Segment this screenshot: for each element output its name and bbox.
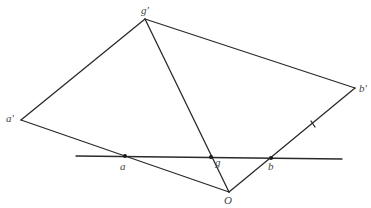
label-b-prime: b′ xyxy=(359,82,368,94)
label-o: O xyxy=(224,194,232,206)
label-a-prime: a′ xyxy=(6,112,15,124)
transversal-line xyxy=(76,156,342,159)
segment-a-prime-g-prime xyxy=(21,19,145,120)
label-a: a xyxy=(120,160,126,172)
label-g: g xyxy=(215,156,221,168)
segment-o-b-prime xyxy=(229,88,355,192)
geometry-diagram: g′ a′ b′ O a g b xyxy=(0,0,371,208)
label-g-prime: g′ xyxy=(141,4,150,16)
segment-g-prime-b-prime xyxy=(145,19,355,88)
point-g xyxy=(209,155,213,159)
label-b: b xyxy=(268,160,274,172)
point-a xyxy=(123,154,127,158)
